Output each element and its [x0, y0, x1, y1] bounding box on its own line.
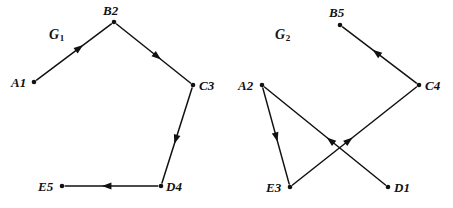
- graph-edge-D1-to-A2: [264, 87, 385, 185]
- graph-edge-A1-to-B2: [37, 24, 112, 80]
- graph-caption-G2: G2: [275, 28, 290, 42]
- edge-line: [37, 24, 112, 80]
- graph-node-dot-B2[interactable]: [112, 20, 117, 25]
- graph-node-label-E3: E3: [266, 181, 282, 194]
- graph-node-label-B2: B2: [103, 4, 119, 17]
- graph-node-label-A1: A1: [11, 76, 27, 89]
- graph-edge-E3-to-C4: [293, 87, 417, 185]
- graph-node-label-D4: D4: [166, 180, 182, 193]
- edge-arrowhead: [102, 183, 112, 190]
- edge-line: [264, 87, 385, 185]
- graph-node-dot-E5[interactable]: [60, 184, 65, 189]
- graph-node-label-A2: A2: [238, 79, 254, 92]
- edge-arrowhead: [272, 132, 279, 142]
- graph-node-label-E5: E5: [38, 180, 54, 193]
- graph-edge-D4-to-E5: [65, 183, 158, 190]
- directed-graph-figure: A1B2C3D4E5G1B5C4A2E3D1G2: [0, 0, 453, 208]
- graph-node-dot-D4[interactable]: [159, 184, 164, 189]
- graph-edge-C4-to-B5: [343, 27, 417, 83]
- graph-edge-C3-to-D4: [162, 88, 192, 183]
- edge-arrowhead: [174, 134, 180, 144]
- graph-edge-A2-to-E3: [263, 88, 289, 184]
- edge-arrowhead: [373, 50, 383, 58]
- graph-caption-base: G: [49, 27, 59, 42]
- graph-node-dot-D1[interactable]: [386, 185, 391, 190]
- graph-node-dot-C4[interactable]: [417, 83, 422, 88]
- graph-caption-G1: G1: [49, 28, 64, 42]
- graph-caption-subscript: 1: [60, 33, 65, 43]
- graph-node-dot-C3[interactable]: [191, 83, 196, 88]
- graph-caption-base: G: [275, 27, 285, 42]
- edge-arrowhead: [74, 45, 84, 53]
- graph-node-dot-E3[interactable]: [288, 185, 293, 190]
- graph-canvas: [0, 0, 453, 208]
- graph-node-dot-A1[interactable]: [32, 80, 37, 85]
- edge-line: [293, 87, 417, 185]
- graph-node-dot-B5[interactable]: [338, 23, 343, 28]
- graph-node-label-D1: D1: [394, 181, 410, 194]
- graph-node-label-C4: C4: [425, 79, 441, 92]
- graph-edge-B2-to-C3: [117, 24, 191, 83]
- graph-node-label-C3: C3: [199, 79, 215, 92]
- edge-line: [117, 24, 191, 83]
- graph-caption-subscript: 2: [286, 33, 291, 43]
- graph-node-dot-A2[interactable]: [260, 83, 265, 88]
- graph-node-label-B5: B5: [329, 6, 345, 19]
